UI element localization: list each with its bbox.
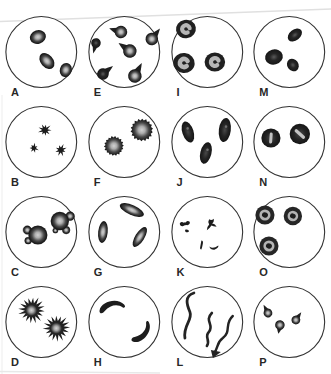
panel-i: I [166, 10, 249, 100]
panel-label-l: L [177, 357, 184, 368]
target-cell [260, 236, 279, 255]
panel-c: C [0, 190, 83, 280]
panel-n: N [248, 100, 331, 190]
panel-g: G [83, 190, 166, 280]
microscope-field-circle [89, 287, 160, 358]
microscope-field-circle [171, 107, 242, 178]
microscope-field-circle [6, 107, 77, 178]
panel-label-c: C [11, 267, 19, 278]
microscope-field-circle [89, 107, 160, 178]
target-cell [256, 205, 275, 224]
panel-label-a: A [11, 87, 19, 98]
panel-label-d: D [11, 357, 19, 368]
microscope-field-circle [254, 287, 325, 358]
panel-k: K [166, 190, 249, 280]
cell-morphology-plate: AEIMBFJNCGKODHLP [0, 0, 331, 374]
panel-m: M [248, 10, 331, 100]
target-cell [284, 207, 302, 225]
panel-label-o: O [259, 267, 268, 278]
panel-label-e: E [94, 87, 102, 98]
panel-p: P [248, 280, 331, 370]
microscope-field-circle [171, 197, 242, 268]
panel-o: O [248, 190, 331, 280]
panel-label-j: J [177, 177, 184, 188]
panel-label-m: M [259, 87, 269, 98]
microscope-field-circle [6, 287, 77, 358]
panel-label-f: F [94, 177, 101, 188]
panel-label-h: H [94, 357, 102, 368]
panel-h: H [83, 280, 166, 370]
panel-e: E [83, 10, 166, 100]
bottom-smudge [0, 372, 160, 374]
panel-f: F [83, 100, 166, 190]
stomato-cell [262, 128, 281, 147]
panel-j: J [166, 100, 249, 190]
panel-label-n: N [259, 177, 267, 188]
ringC-cell [204, 53, 225, 72]
panel-label-k: K [177, 267, 185, 278]
panel-label-b: B [11, 177, 19, 188]
panel-d: D [0, 280, 83, 370]
panel-b: B [0, 100, 83, 190]
panel-grid: AEIMBFJNCGKODHLP [0, 10, 331, 370]
panel-label-g: G [94, 267, 103, 278]
panel-a: A [0, 10, 83, 100]
panel-label-i: I [177, 87, 181, 98]
panel-l: L [166, 280, 249, 370]
microscope-field-circle [254, 17, 325, 88]
panel-label-p: P [259, 357, 267, 368]
stomato-cell [290, 124, 310, 144]
